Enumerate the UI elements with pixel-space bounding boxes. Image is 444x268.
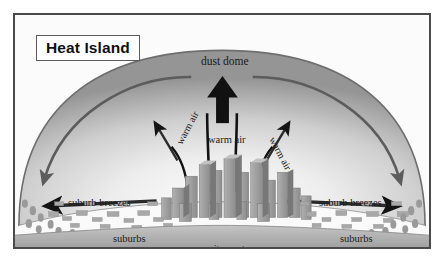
label-suburbs-right: suburbs <box>340 233 373 244</box>
page-title: Heat Island <box>46 39 130 56</box>
figure-canvas: Heat Island dust dome warm air warm air … <box>0 0 444 268</box>
figure-title-box: Heat Island <box>36 35 140 61</box>
label-suburb-breezes-left: suburb breezes <box>68 197 131 208</box>
diagram-frame: Heat Island dust dome warm air warm air … <box>13 13 431 249</box>
label-suburbs-left: suburbs <box>113 233 146 244</box>
label-dust-dome: dust dome <box>201 55 249 67</box>
label-suburb-breezes-right: suburb breezes <box>319 197 382 208</box>
label-city-center: city center <box>209 243 253 249</box>
label-warm-air-center: warm air <box>208 134 246 145</box>
